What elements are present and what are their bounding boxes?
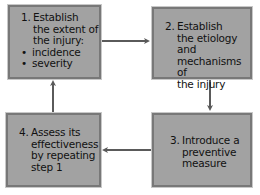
step-4-box: 4. Assess its effectiveness by repeating… — [6, 113, 101, 187]
step-1-line: Establish — [33, 12, 101, 24]
step-3-number: 3. — [170, 135, 180, 147]
step-4-line: by repeating — [31, 150, 101, 162]
step-2-box: 2. Establish the etiology and mechanisms… — [152, 7, 252, 79]
step-1-line: the injury: — [33, 35, 101, 47]
step-2-line: the etiology and — [177, 33, 253, 56]
step-4-line: Assess its — [31, 127, 101, 139]
step-2-number: 2. — [165, 21, 175, 33]
step-3-line: measure — [182, 158, 250, 170]
step-2-line: the injury — [177, 79, 253, 91]
step-3-line: Introduce a — [182, 135, 250, 147]
step-2-line: mechanisms of — [177, 56, 253, 79]
step-2-line: Establish — [177, 21, 253, 33]
step-4-line: step 1 — [31, 162, 101, 174]
step-1-number: 1. — [21, 12, 31, 24]
step-4-number: 4. — [19, 127, 29, 139]
step-1-box: 1. Establish the extent of the injury: i… — [8, 5, 101, 79]
step-3-box: 3. Introduce a preventive measure — [152, 113, 252, 187]
step-1-bullet: severity — [20, 58, 101, 70]
